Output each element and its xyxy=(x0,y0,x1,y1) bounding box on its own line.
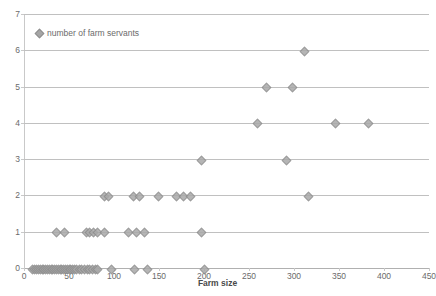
y-tick-mark xyxy=(21,14,24,15)
gridline-y xyxy=(24,50,429,51)
y-tick-label: 2 xyxy=(15,191,20,200)
y-tick-label: 1 xyxy=(15,227,20,236)
data-point xyxy=(304,191,314,201)
gridline-y xyxy=(24,195,429,196)
gridline-y xyxy=(24,14,429,15)
data-point xyxy=(299,46,309,56)
y-tick-label: 5 xyxy=(15,82,20,91)
chart-legend: number of farm servants xyxy=(36,28,139,38)
data-point xyxy=(331,119,341,129)
x-axis-label: Farm size xyxy=(0,278,435,288)
data-point xyxy=(261,83,271,93)
data-point xyxy=(281,155,291,165)
data-point xyxy=(99,228,109,238)
y-tick-label: 6 xyxy=(15,46,20,55)
x-tick-mark xyxy=(384,268,385,271)
data-point xyxy=(186,191,196,201)
y-tick-label: 4 xyxy=(15,119,20,128)
x-tick-mark xyxy=(339,268,340,271)
legend-marker-icon xyxy=(35,28,45,38)
chart-title-remnant xyxy=(0,0,435,6)
data-point xyxy=(153,191,163,201)
data-point xyxy=(142,264,152,274)
y-tick-label: 0 xyxy=(15,264,20,273)
y-tick-mark xyxy=(21,232,24,233)
y-tick-mark xyxy=(21,159,24,160)
data-point xyxy=(196,228,206,238)
gridline-y xyxy=(24,87,429,88)
data-point xyxy=(60,228,70,238)
y-tick-mark xyxy=(21,123,24,124)
gridline-y xyxy=(24,159,429,160)
x-tick-mark xyxy=(159,268,160,271)
data-point xyxy=(364,119,374,129)
y-tick-label: 3 xyxy=(15,155,20,164)
x-tick-mark xyxy=(294,268,295,271)
data-point xyxy=(196,155,206,165)
data-point xyxy=(252,119,262,129)
x-tick-mark xyxy=(249,268,250,271)
legend-label: number of farm servants xyxy=(47,28,139,38)
x-tick-mark xyxy=(24,268,25,271)
data-point xyxy=(140,228,150,238)
plot-area: 01234567050100150200250300350400450 xyxy=(24,14,429,268)
y-tick-mark xyxy=(21,87,24,88)
x-tick-mark xyxy=(429,268,430,271)
y-tick-mark xyxy=(21,195,24,196)
data-point xyxy=(287,83,297,93)
y-tick-mark xyxy=(21,50,24,51)
y-tick-label: 7 xyxy=(15,10,20,19)
data-point xyxy=(130,264,140,274)
